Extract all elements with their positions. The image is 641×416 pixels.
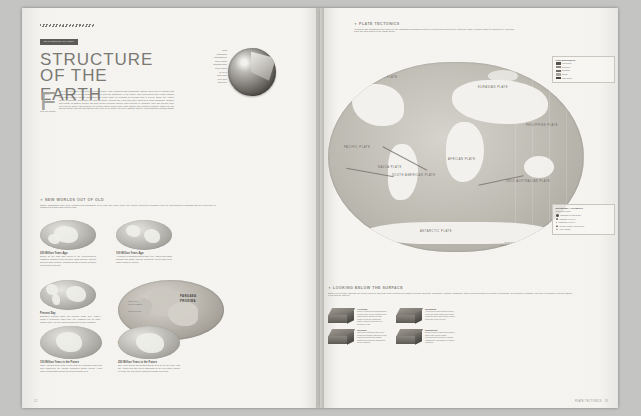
legend-row: Transform [556, 69, 612, 72]
legend-row: Magnitude 6.0 to 6.9 [556, 221, 612, 223]
surface-item-accretion: Accretion Where a continent meets subduc… [328, 308, 388, 325]
legend-swatch-icon [556, 73, 561, 75]
footer-label: PLATE TECTONICS [575, 400, 602, 403]
legend-row: Diffuse [556, 73, 612, 76]
pangaea-legend-item: Subduction Zone [128, 310, 146, 313]
panel-present-day: Present Day Displaced tectonic plates ar… [40, 280, 100, 324]
legend-row: Divergent [556, 66, 612, 69]
legend-row: Volcanic eruption, 1900 to 2010 [556, 225, 612, 227]
surface-item-body: At mid-ocean ridges magma rises to fill … [425, 310, 455, 320]
right-page: ▼ PLATE TECTONICS Volcanoes and earthqua… [320, 8, 618, 408]
globe-thumb-100mya [116, 220, 172, 250]
surface-item-body: When two continental plates meet, neithe… [357, 331, 387, 344]
legend-title: Plate Boundaries [556, 59, 612, 61]
circle-medium-icon [556, 218, 558, 220]
surface-process-grid: Accretion Where a continent meets subduc… [328, 308, 456, 346]
panel-body: The Arctic Ocean and Mediterranean Sea a… [118, 364, 180, 373]
plate-label: AFRICAN PLATE [448, 158, 476, 161]
legend-label: Convergent [562, 62, 571, 64]
new-worlds-section: ▼ NEW WORLDS OUT OF OLD Earth's landmass… [40, 198, 270, 209]
drop-cap: F [40, 91, 56, 111]
block-diagram-accretion [328, 308, 355, 325]
plate-label: NORTH AMERICAN PLATE [354, 76, 398, 79]
plate-label: SOUTH AMERICAN PLATE [392, 174, 436, 177]
new-worlds-heading: NEW WORLDS OUT OF OLD [45, 198, 104, 202]
pangaea-label-2: PROXIMA [180, 299, 196, 303]
earth-cutaway-globe [228, 48, 276, 96]
panel-body: What Australia drifts north to spin near… [40, 364, 102, 373]
globe-thumb-present [40, 280, 96, 310]
triangle-open-icon [556, 228, 558, 230]
legend-row: Magnitude 7.0 to 7.9 [556, 218, 612, 220]
footer-right: PLATE TECTONICS 13 [575, 400, 608, 403]
circle-large-icon [556, 214, 559, 217]
legend-swatch-icon [556, 70, 561, 72]
panel-250my-future: 250 Million Years in the Future The Arct… [118, 326, 180, 373]
plate-label: INDO-AUSTRALIAN PLATE [506, 180, 550, 183]
block-diagram-collision [328, 329, 355, 346]
new-worlds-intro: Earth's landmasses have been colliding a… [40, 204, 216, 210]
plate-label: NAZCA PLATE [378, 166, 402, 169]
intro-text: rom a hot inner core to a crust of shift… [40, 90, 174, 113]
layer-label: Solid Core [197, 81, 227, 85]
panel-100mya: 100 Million Years Ago As pieces of Panga… [116, 220, 172, 264]
plate-label: PHILIPPINE PLATE [526, 124, 558, 127]
surface-item-spreading: Spreading At mid-ocean ridges magma rise… [396, 308, 456, 325]
plate-boundaries-legend: Plate Boundaries Convergent Divergent Tr… [552, 56, 615, 83]
panel-100my-future: 100 Million Years in the Future What Aus… [40, 326, 102, 373]
badge-hatch-decoration [40, 24, 94, 27]
plate-label: EURASIAN PLATE [478, 86, 508, 89]
legend-row: Active volcano [556, 228, 612, 230]
triangle-marker-icon: ▼ [328, 286, 331, 290]
legend-row: Magnitude 8.0 and greater [556, 214, 612, 217]
continent-greenland [488, 70, 518, 82]
panel-200mya: 200 Million Years Ago Nearly all the lan… [40, 220, 96, 267]
below-surface-body: Earth is never static. Beneath our fores… [328, 292, 572, 298]
legend-label: Magnitude 6.0 to 6.9 [559, 221, 575, 223]
below-surface-heading: LOOKING BELOW THE SURFACE [333, 286, 403, 290]
below-surface-section: ▼ LOOKING BELOW THE SURFACE Earth is nev… [328, 286, 572, 297]
page-number-left: 12 [34, 400, 37, 403]
legend-swatch-icon [556, 66, 561, 68]
legend-label: Magnitude 7.0 to 7.9 [559, 218, 575, 220]
triangle-marker-icon: ▼ [40, 198, 43, 202]
globe-thumb-100my-future [40, 326, 102, 359]
legend-swatch-icon [556, 77, 561, 79]
world-tectonic-map: NORTH AMERICAN PLATE EURASIAN PLATE PACI… [328, 62, 584, 252]
page-number-right: 13 [605, 400, 608, 403]
legend-subtitle: of the Past Century [556, 210, 612, 213]
plate-label: ANTARCTIC PLATE [420, 230, 452, 233]
panel-body: Nearly all the land was joined in the su… [40, 255, 96, 267]
left-page: EXPLORING PLANET STRUCTURE OF THE EARTH … [22, 8, 320, 408]
pangaea-label-1: PANGAEA [180, 294, 197, 298]
earth-layer-labels: Crust Lithosphere Asthenosphere Upper Ma… [197, 49, 227, 85]
legend-row: Plate motion [556, 77, 612, 80]
legend-label: Divergent [562, 66, 570, 68]
continent-australia [524, 156, 554, 178]
book-gutter-shadow [316, 8, 324, 408]
surface-item-subduction: Subduction Dense oceanic crust dives ben… [396, 329, 456, 346]
legend-label: Magnitude 8.0 and greater [560, 214, 581, 216]
legend-row: Convergent [556, 62, 612, 65]
plate-tectonics-body: Volcanoes and earthquakes hot spots line… [354, 28, 514, 34]
legend-label: Diffuse [562, 73, 568, 75]
legend-label: Transform [562, 69, 570, 71]
triangle-marker-icon: ▼ [354, 22, 357, 26]
series-badge: EXPLORING PLANET [40, 39, 78, 45]
plate-tectonics-section: ▼ PLATE TECTONICS Volcanoes and earthqua… [354, 22, 514, 33]
plate-tectonics-heading: PLATE TECTONICS [359, 22, 400, 26]
map-projection-label: WINKEL TRIPEL PROJECTION [478, 244, 548, 247]
surface-item-body: Where a continent meets subducting ocean… [357, 310, 387, 325]
panel-body: Displaced tectonic plates are ongoing to… [40, 315, 100, 324]
globe-thumb-200mya [40, 220, 96, 250]
book-spread: EXPLORING PLANET STRUCTURE OF THE EARTH … [0, 0, 641, 416]
legend-label: Plate motion [562, 77, 572, 79]
surface-item-collision: Collision When two continental plates me… [328, 329, 388, 346]
block-diagram-spreading [396, 308, 423, 325]
surface-item-body: Dense oceanic crust dives beneath a ligh… [425, 331, 455, 344]
block-diagram-subduction [396, 329, 423, 346]
legend-title: Earthquake / Volcanoes [556, 207, 612, 209]
plate-label: PACIFIC PLATE [344, 146, 370, 149]
circle-small-icon [556, 222, 558, 224]
triangle-icon [556, 225, 558, 227]
